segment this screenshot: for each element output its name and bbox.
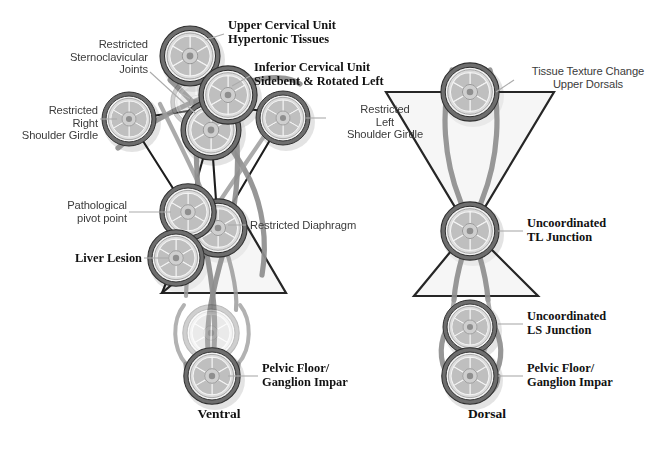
label-pathological-pivot-point: Pathological pivot point [0, 199, 127, 224]
caption-ventral: Ventral [169, 406, 269, 422]
wheel-inferior-cervical[interactable] [199, 66, 257, 124]
label-inferior-cervical-unit: Inferior Cervical Unit Sidebent & Rotate… [254, 60, 384, 88]
label-pelvic-floor-ganglion-impar-ventral: Pelvic Floor/ Ganglion Impar [262, 361, 348, 389]
label-liver-lesion: Liver Lesion [0, 251, 142, 265]
wheel-tl-junction[interactable] [441, 202, 499, 260]
wheel-pelvic-floor-dorsal[interactable] [442, 348, 498, 404]
label-pelvic-floor-ganglion-impar-dorsal: Pelvic Floor/ Ganglion Impar [527, 361, 613, 389]
label-restricted-diaphragm: Restricted Diaphragm [250, 219, 356, 232]
label-restricted-right-shoulder-girdle: Restricted Right Shoulder Girdle [0, 104, 98, 142]
wheel-ls-junction[interactable] [443, 300, 497, 354]
label-uncoordinated-tl-junction: Uncoordinated TL Junction [527, 216, 606, 244]
label-uncoordinated-ls-junction: Uncoordinated LS Junction [527, 309, 606, 337]
caption-dorsal: Dorsal [437, 406, 537, 422]
wheel-left-shoulder-girdle[interactable] [256, 91, 310, 145]
label-upper-cervical-unit: Upper Cervical Unit Hypertonic Tissues [228, 18, 336, 46]
label-restricted-sternoclavicular-joints: Restricted Sternoclavicular Joints [0, 38, 148, 76]
wheel-upper-dorsals[interactable] [441, 63, 499, 121]
label-restricted-left-shoulder-girdle: Restricted Left Shoulder Girdle [330, 103, 440, 141]
diagram-canvas: .w-tire-out{fill:#6e6e6e;stroke:#2f2f2f;… [0, 0, 660, 453]
label-tissue-texture-change: Tissue Texture Change Upper Dorsals [518, 65, 658, 90]
